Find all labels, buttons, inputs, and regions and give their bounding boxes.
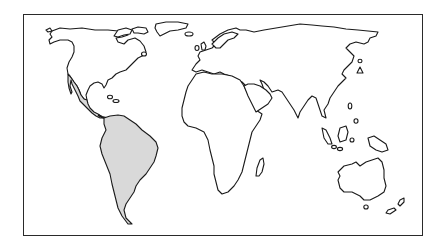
region-iceland — [185, 32, 193, 36]
region-baffin-island — [132, 27, 148, 34]
region-cuba — [108, 95, 113, 99]
world-map — [0, 0, 445, 250]
region-hispaniola — [113, 100, 119, 103]
region-great-britain — [201, 42, 206, 50]
region-new-guinea — [368, 136, 388, 152]
region-greenland — [155, 22, 188, 36]
region-philippines-south — [354, 119, 358, 123]
region-madagascar — [256, 158, 264, 176]
region-ireland — [195, 46, 199, 51]
region-australia — [338, 158, 386, 200]
region-new-zealand-north — [398, 198, 404, 206]
region-java — [332, 145, 337, 148]
region-new-zealand-south — [386, 208, 396, 214]
region-alaska-island — [46, 28, 52, 32]
region-borneo — [338, 126, 348, 142]
region-south-america — [100, 115, 158, 224]
region-tasmania — [364, 205, 368, 209]
region-newfoundland — [142, 52, 147, 56]
region-philippines — [348, 103, 352, 109]
region-timor — [337, 147, 342, 150]
region-north-america — [49, 28, 146, 100]
region-arctic-islands — [114, 28, 132, 37]
region-honshu — [357, 67, 363, 73]
region-sulawesi — [350, 138, 354, 142]
region-hokkaido — [358, 59, 362, 63]
region-sumatra — [322, 128, 332, 144]
